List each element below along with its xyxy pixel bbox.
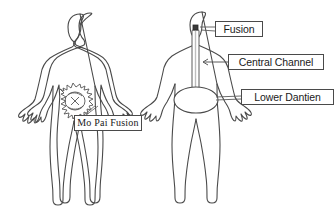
- central-channel-tube: [192, 30, 199, 92]
- lower-dantien-leader: [216, 96, 241, 100]
- right-figure-group: [141, 12, 252, 203]
- left-figure-group: [19, 13, 133, 205]
- callout-fusion-label: Fusion: [224, 24, 255, 35]
- lower-dantien-oval: [174, 87, 218, 113]
- callout-lower-dantien-label: Lower Dantien: [254, 92, 320, 103]
- fusion-point: [193, 25, 198, 30]
- callout-mo-pai-fusion-label: Mo Pai Fusion: [77, 118, 139, 128]
- diagram-canvas: [0, 0, 336, 218]
- callout-mo-pai-fusion[interactable]: Mo Pai Fusion: [74, 115, 142, 131]
- body-energy-diagram: Mo Pai Fusion Fusion Central Channel Low…: [0, 0, 336, 218]
- callout-lower-dantien[interactable]: Lower Dantien: [241, 89, 334, 105]
- callout-fusion[interactable]: Fusion: [215, 21, 263, 37]
- callout-central-channel[interactable]: Central Channel: [228, 54, 324, 70]
- callout-central-channel-label: Central Channel: [239, 57, 313, 68]
